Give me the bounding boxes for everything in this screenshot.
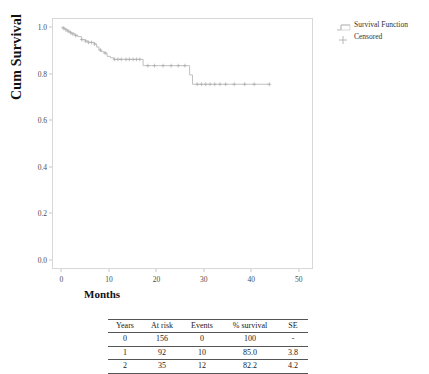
col-header-survival: % survival [222, 320, 278, 333]
survival-curve-svg [52, 18, 313, 269]
censored-marker [89, 41, 93, 45]
y-axis-title: Cum Survival [9, 14, 25, 100]
chart-legend: Survival Function Censored [337, 19, 427, 43]
legend-item-censored: Censored [337, 31, 427, 41]
legend-label-survival-function: Survival Function [354, 20, 408, 29]
censored-marker [169, 64, 173, 68]
cell-years: 2 [108, 360, 142, 373]
x-axis-title: Months [84, 288, 120, 300]
x-tick-label: 10 [105, 275, 113, 284]
risk-table: Years At risk Events % survival SE 01560… [108, 319, 308, 374]
table-header-row: Years At risk Events % survival SE [108, 320, 308, 333]
censored-marker [195, 82, 199, 86]
cell-se: 3.8 [278, 346, 308, 359]
censored-marker [176, 64, 180, 68]
censored-marker [200, 82, 204, 86]
col-header-se: SE [278, 320, 308, 333]
x-tick-mark [298, 269, 299, 272]
cell-survival: 100 [222, 333, 278, 346]
censored-marker [183, 64, 187, 68]
cell-events: 12 [182, 360, 222, 373]
table-row: 1921085.03.8 [108, 346, 308, 359]
x-tick-mark [203, 269, 204, 272]
x-tick-label: 0 [60, 275, 64, 284]
legend-item-survival-function: Survival Function [337, 19, 427, 29]
cell-at-risk: 156 [142, 333, 182, 346]
censored-marker [127, 57, 131, 61]
col-header-years: Years [108, 320, 142, 333]
cell-at-risk: 92 [142, 346, 182, 359]
table-row: 2351282.24.2 [108, 360, 308, 373]
y-tick-label: 0.6 [38, 116, 47, 125]
col-header-at-risk: At risk [142, 320, 182, 333]
censored-marker [267, 82, 271, 86]
censored-marker [146, 64, 150, 68]
cell-se: - [278, 333, 308, 346]
cell-se: 4.2 [278, 360, 308, 373]
cell-years: 0 [108, 333, 142, 346]
y-tick-label: 0.2 [38, 209, 47, 218]
censored-marker [119, 57, 123, 61]
y-tick-label: 0.8 [38, 69, 47, 78]
y-tick-label: 0.4 [38, 162, 47, 171]
y-tick-label: 1.0 [38, 23, 47, 32]
x-tick-mark [156, 269, 157, 272]
censored-marker [135, 57, 139, 61]
legend-label-censored: Censored [354, 32, 382, 41]
censored-marker [252, 82, 256, 86]
table-body: 01560100-1921085.03.82351282.24.2 [108, 333, 308, 373]
cell-at-risk: 35 [142, 360, 182, 373]
censored-marker [208, 82, 212, 86]
y-tick-label: 0.0 [38, 255, 47, 264]
censored-markers [61, 26, 271, 86]
col-header-events: Events [182, 320, 222, 333]
censored-marker [213, 82, 217, 86]
x-tick-mark [61, 269, 62, 272]
censored-marker [224, 82, 228, 86]
cell-events: 0 [182, 333, 222, 346]
x-tick-label: 40 [248, 275, 256, 284]
step-line-icon [337, 19, 351, 29]
x-tick-label: 50 [295, 275, 303, 284]
survival-function-path [61, 27, 270, 84]
x-tick-label: 20 [153, 275, 161, 284]
cell-events: 10 [182, 346, 222, 359]
censored-marker [218, 82, 222, 86]
x-tick-label: 30 [200, 275, 208, 284]
x-tick-mark [251, 269, 252, 272]
plus-icon [337, 31, 351, 41]
censored-marker [204, 82, 208, 86]
cell-survival: 85.0 [222, 346, 278, 359]
censored-marker [232, 82, 236, 86]
survival-step-line [61, 27, 270, 84]
cell-survival: 82.2 [222, 360, 278, 373]
x-tick-mark [108, 269, 109, 272]
censored-marker [80, 38, 84, 42]
censored-marker [153, 64, 157, 68]
censored-marker [243, 82, 247, 86]
censored-marker [131, 57, 135, 61]
censored-marker [138, 57, 142, 61]
plot-area: 0.00.20.40.60.81.001020304050 [52, 18, 313, 269]
cell-years: 1 [108, 346, 142, 359]
censored-marker [116, 57, 120, 61]
table-row: 01560100- [108, 333, 308, 346]
censored-marker [161, 64, 165, 68]
censored-marker [124, 57, 128, 61]
